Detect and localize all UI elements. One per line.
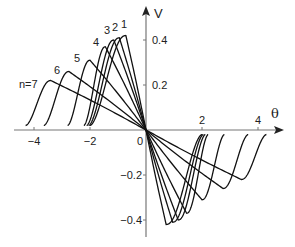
x-tick-label: 4 (255, 114, 261, 126)
y-tick-label: 0.4 (152, 34, 167, 46)
y-axis-label: V (154, 6, 163, 21)
curve-label: 2 (112, 21, 118, 33)
y-tick-label: −0.2 (120, 169, 142, 181)
y-tick-label: 0.2 (152, 79, 167, 91)
curve-label: n=7 (19, 78, 38, 90)
x-tick-label: 0 (137, 135, 143, 147)
curve-labels: 123456n=7 (19, 18, 127, 90)
curve-label: 1 (121, 18, 127, 30)
curve-label: 4 (93, 36, 99, 48)
chart-svg: −4−20240.40.2−0.2−0.4Vθ 123456n=7 (0, 0, 295, 247)
x-tick-label: −4 (28, 135, 41, 147)
x-tick-label: 2 (199, 114, 205, 126)
y-tick-label: −0.4 (120, 214, 142, 226)
x-axis-label: θ (271, 106, 279, 121)
curve-label: 5 (74, 52, 80, 64)
x-tick-label: −2 (84, 135, 97, 147)
curve-label: 6 (54, 64, 60, 76)
axes: −4−20240.40.2−0.2−0.4Vθ (14, 6, 284, 237)
chart-container: −4−20240.40.2−0.2−0.4Vθ 123456n=7 (0, 0, 295, 247)
curve-label: 3 (104, 24, 110, 36)
